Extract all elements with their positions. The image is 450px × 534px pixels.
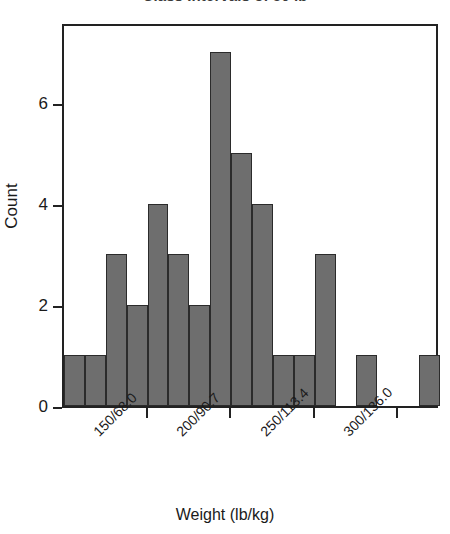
histogram-bar <box>168 254 189 406</box>
histogram-bar <box>148 204 169 406</box>
plot-area <box>62 24 438 408</box>
bars-layer <box>64 26 436 406</box>
x-axis-title: Weight (lb/kg) <box>0 506 450 524</box>
histogram-bar <box>106 254 127 406</box>
y-axis-tick <box>53 104 62 106</box>
histogram-bar <box>315 254 336 406</box>
histogram-figure: Class Intervals of 50 lb 0246 Count 150/… <box>0 0 450 534</box>
y-axis-title: Count <box>2 126 22 286</box>
histogram-bar <box>231 153 252 406</box>
y-axis-tick-label: 0 <box>20 397 48 417</box>
y-axis-tick-label: 2 <box>20 296 48 316</box>
x-axis-tick <box>146 408 148 418</box>
y-axis-tick-label: 6 <box>20 94 48 114</box>
x-axis-tick <box>313 408 315 418</box>
histogram-bar <box>210 52 231 406</box>
x-axis-tick <box>229 408 231 418</box>
histogram-bar <box>64 355 85 406</box>
y-axis-tick <box>53 306 62 308</box>
y-axis-tick <box>53 205 62 207</box>
chart-title: Class Intervals of 50 lb <box>0 0 450 4</box>
y-axis-tick <box>53 407 62 409</box>
y-axis-tick-label: 4 <box>20 195 48 215</box>
histogram-bar <box>252 204 273 406</box>
histogram-bar <box>419 355 440 406</box>
histogram-bar <box>85 355 106 406</box>
x-axis-tick <box>396 408 398 418</box>
histogram-bar <box>189 305 210 406</box>
